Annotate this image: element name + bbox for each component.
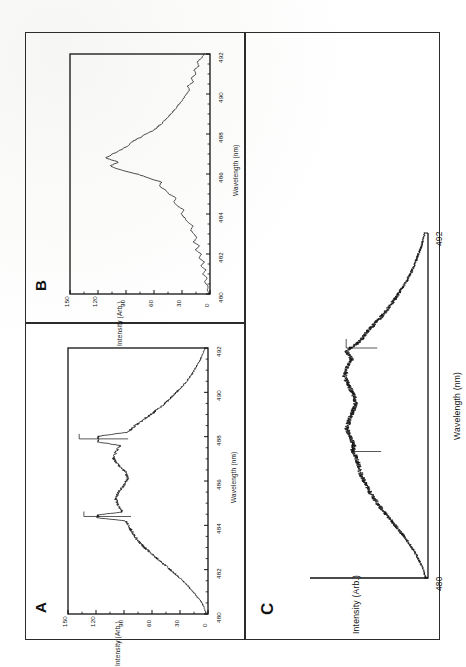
panel-b-xtick-label: 480 — [217, 292, 224, 303]
panel-a-yaxis-title: Intensity (Arb.) — [114, 621, 121, 666]
panel-b-plot — [62, 37, 237, 312]
panel-c-trace — [342, 233, 426, 578]
figure-page: 4804824844864884904920306090120150Wavele… — [0, 0, 466, 667]
panel-a-plot — [60, 332, 235, 632]
panel-a-ytick-label: 0 — [201, 623, 208, 627]
panel-a-xtick-label: 482 — [215, 568, 222, 579]
panel-a-plot-frame — [68, 348, 208, 614]
panel-c-plot-spines — [310, 233, 428, 578]
panel-a-xtick-label: 490 — [215, 390, 222, 401]
panel-a-xtick-label: 484 — [215, 523, 222, 534]
panel-b-ytick-label: 60 — [147, 300, 154, 307]
panel-divider-horizontal — [25, 322, 244, 324]
panel-c-xtick-label: 492 — [434, 231, 444, 246]
panel-b-xtick-label: 486 — [217, 172, 224, 183]
panel-c-plot — [300, 205, 460, 600]
panel-c-letter: C — [258, 603, 278, 615]
panel-b-svg — [62, 37, 237, 312]
panel-a-ytick-label: 60 — [145, 620, 152, 627]
panel-b-xtick-label: 484 — [217, 212, 224, 223]
panel-a-xtick-label: 492 — [215, 346, 222, 357]
panel-a-xtick-label: 486 — [215, 479, 222, 490]
panel-a-letter: A — [32, 602, 49, 613]
panel-a-xaxis-title: Wavelength (nm) — [230, 452, 237, 503]
panel-a-xtick-label: 488 — [215, 435, 222, 446]
panel-a-trace — [96, 348, 206, 614]
panel-b-ytick-label: 0 — [203, 303, 210, 307]
panel-a-xtick-label: 480 — [215, 612, 222, 623]
panel-b-letter: B — [32, 280, 49, 291]
panel-b-xaxis-title: Wavelength (nm) — [232, 145, 239, 196]
panel-c-xtick-label: 480 — [434, 576, 444, 591]
panel-divider-vertical — [244, 32, 246, 640]
panel-b-ytick-label: 150 — [63, 296, 70, 307]
panel-b-xtick-label: 492 — [217, 52, 224, 63]
panel-a-svg — [60, 332, 235, 632]
panel-b-xtick-label: 490 — [217, 92, 224, 103]
panel-c-xaxis-title: Wavelength (nm) — [452, 371, 462, 439]
panel-b-ytick-label: 30 — [175, 300, 182, 307]
panel-a-ytick-label: 120 — [89, 616, 96, 627]
panel-c-yaxis-title: Intensity (Arb.) — [351, 575, 361, 634]
panel-a-ytick-label: 150 — [61, 616, 68, 627]
panel-c-svg — [300, 205, 460, 600]
panel-b-trace — [106, 54, 209, 294]
panel-a-ytick-label: 30 — [173, 620, 180, 627]
panel-b-plot-frame — [70, 54, 210, 294]
panel-b-ytick-label: 120 — [91, 296, 98, 307]
panel-b-xtick-label: 482 — [217, 252, 224, 263]
panel-b-xtick-label: 488 — [217, 132, 224, 143]
